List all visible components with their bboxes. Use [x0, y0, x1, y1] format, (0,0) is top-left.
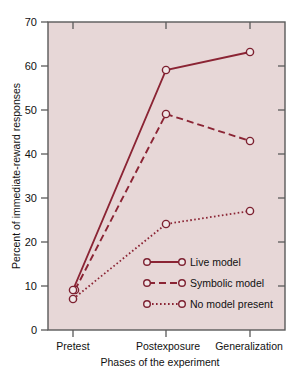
y-tick-label-40: 40 — [25, 148, 37, 160]
x-axis-title: Phases of the experiment — [100, 356, 219, 368]
data-point-live-postexposure — [162, 66, 169, 73]
y-tick-label-30: 30 — [25, 192, 37, 204]
y-axis-title: Percent of immediate-reward responses — [10, 83, 22, 269]
legend-marker-left-live — [144, 259, 151, 266]
x-tick-label-generalization: Generalization — [215, 340, 283, 352]
data-point-no-model-pretest — [69, 295, 76, 302]
legend-marker-right-symbolic — [179, 280, 186, 287]
data-point-symbolic-generalization — [246, 137, 253, 144]
y-tick-label-0: 0 — [31, 324, 37, 336]
x-tick-label-pretest: Pretest — [56, 340, 89, 352]
data-point-live-pretest — [69, 286, 76, 293]
line-chart-figure: 70 60 50 40 30 20 10 0 Pretest Postexpos… — [0, 0, 297, 378]
y-tick-label-70: 70 — [25, 16, 37, 28]
legend-marker-right-live — [179, 259, 186, 266]
y-tick-label-60: 60 — [25, 60, 37, 72]
data-point-live-generalization — [246, 48, 253, 55]
y-tick-label-50: 50 — [25, 104, 37, 116]
x-tick-label-postexposure: Postexposure — [136, 340, 200, 352]
data-point-no-model-postexposure — [162, 220, 169, 227]
y-tick-label-20: 20 — [25, 236, 37, 248]
chart-svg: 70 60 50 40 30 20 10 0 Pretest Postexpos… — [0, 0, 297, 378]
data-point-no-model-generalization — [246, 207, 253, 214]
legend-marker-left-symbolic — [144, 280, 151, 287]
legend-label-symbolic-model: Symbolic model — [190, 277, 264, 289]
legend-marker-right-no-model — [179, 301, 186, 308]
y-tick-label-10: 10 — [25, 280, 37, 292]
data-point-symbolic-postexposure — [162, 110, 169, 117]
y-axis-ticks — [41, 22, 48, 330]
legend-marker-left-no-model — [144, 301, 151, 308]
legend-label-no-model-present: No model present — [190, 298, 273, 310]
legend-label-live-model: Live model — [190, 256, 241, 268]
